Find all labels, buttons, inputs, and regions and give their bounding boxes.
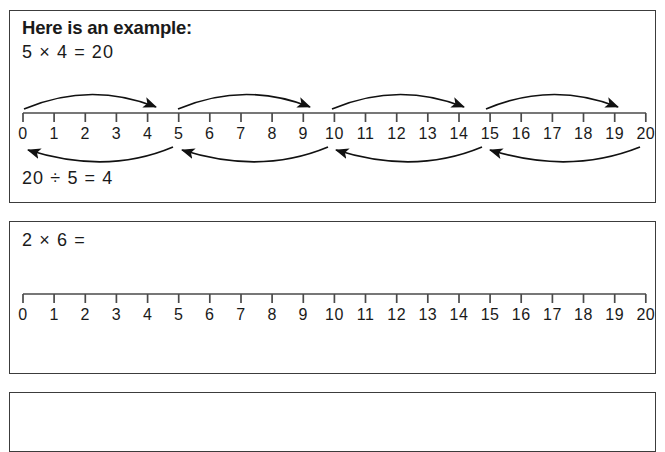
- tick-label: 13: [418, 125, 437, 142]
- tick-label: 18: [574, 125, 593, 142]
- tick-label: 12: [387, 306, 406, 323]
- tick-label: 8: [267, 125, 276, 142]
- tick-label: 7: [236, 125, 245, 142]
- question-box-1[interactable]: 2 × 6 =: [9, 221, 656, 374]
- tick-label: 0: [18, 306, 27, 323]
- tick-label: 17: [543, 306, 562, 323]
- tick-label: 13: [418, 306, 437, 323]
- tick-label: 20: [636, 306, 655, 323]
- tick-label: 19: [605, 125, 624, 142]
- tick-label: 9: [299, 306, 308, 323]
- numberline-labels: 0 1 2 3 4 5 6 7 8 9 10 11 12 13 14 15 16: [18, 125, 655, 142]
- question-box-2[interactable]: [9, 392, 656, 452]
- numberline-blank[interactable]: 0 1 2 3 4 5 6 7 8 9 10 11 12 13 14 15 16: [10, 222, 655, 373]
- tick-label: 5: [174, 125, 183, 142]
- numberline-labels: 0 1 2 3 4 5 6 7 8 9 10 11 12 13 14 15 16: [18, 306, 655, 323]
- tick-label: 2: [81, 125, 90, 142]
- tick-label: 0: [18, 125, 27, 142]
- tick-label: 17: [543, 125, 562, 142]
- tick-label: 4: [143, 125, 152, 142]
- tick-label: 7: [236, 306, 245, 323]
- tick-label: 1: [49, 306, 58, 323]
- tick-label: 10: [325, 125, 344, 142]
- tick-label: 10: [325, 306, 344, 323]
- tick-label: 5: [174, 306, 183, 323]
- top-jump-arcs: [24, 94, 618, 109]
- tick-label: 15: [481, 306, 500, 323]
- tick-label: 11: [357, 306, 375, 323]
- tick-label: 16: [512, 125, 531, 142]
- tick-label: 6: [205, 125, 214, 142]
- tick-label: 3: [112, 306, 121, 323]
- tick-label: 4: [143, 306, 152, 323]
- page-title: Here is an example:: [22, 17, 192, 39]
- example-box: Here is an example: 5 × 4 = 20: [9, 10, 656, 203]
- tick-label: 3: [112, 125, 121, 142]
- numberline-axis: [23, 294, 646, 303]
- tick-label: 11: [357, 125, 375, 142]
- tick-label: 6: [205, 306, 214, 323]
- tick-label: 8: [267, 306, 276, 323]
- tick-label: 18: [574, 306, 593, 323]
- numberline-axis: [23, 113, 646, 122]
- tick-label: 12: [387, 125, 406, 142]
- tick-label: 15: [481, 125, 500, 142]
- tick-label: 2: [81, 306, 90, 323]
- tick-label: 9: [299, 125, 308, 142]
- tick-label: 19: [605, 306, 624, 323]
- tick-label: 16: [512, 306, 531, 323]
- tick-label: 14: [450, 125, 469, 142]
- tick-label: 14: [450, 306, 469, 323]
- tick-label: 20: [636, 125, 655, 142]
- multiplication-question: 2 × 6 =: [22, 230, 86, 251]
- bottom-jump-arcs: [28, 147, 640, 162]
- tick-label: 1: [49, 125, 58, 142]
- division-equation: 20 ÷ 5 = 4: [22, 168, 113, 189]
- multiplication-equation: 5 × 4 = 20: [22, 42, 114, 63]
